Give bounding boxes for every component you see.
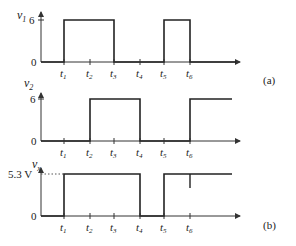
vx-high-label: 5.3 V <box>8 168 32 180</box>
v1-high-label: 6 <box>29 14 35 26</box>
v1-tick-t5: t5 <box>160 67 167 81</box>
vx-tick-t6: t6 <box>186 221 193 235</box>
v2-tick-t3: t3 <box>110 146 117 160</box>
plot-v2: v2 6 0 t1 t2 t3 t4 t5 t6 <box>24 76 240 160</box>
v1-tick-t3: t3 <box>110 67 117 81</box>
v2-high-label: 6 <box>30 93 36 105</box>
timing-diagram: v1 6 0 t1 t2 t3 t4 t5 t6 (a) v2 6 0 t1 t… <box>0 0 296 246</box>
v1-tick-t1: t1 <box>60 67 67 81</box>
v2-zero-label: 0 <box>31 135 37 147</box>
vx-zero-label: 0 <box>31 210 37 222</box>
v2-waveform <box>41 99 232 141</box>
v1-waveform <box>41 20 236 62</box>
vx-tick-t4: t4 <box>136 221 143 235</box>
plot-vx: vx 5.3 V 0 t1 t2 t3 t4 t5 t6 <box>8 157 240 235</box>
v2-tick-t2: t2 <box>86 146 93 160</box>
v1-zero-label: 0 <box>31 56 37 68</box>
vx-axis-label: vx <box>32 157 41 173</box>
v2-tick-t5: t5 <box>160 146 167 160</box>
v1-tick-t4: t4 <box>136 67 143 81</box>
vx-tick-t3: t3 <box>110 221 117 235</box>
panel-b-label: (b) <box>263 219 276 232</box>
v1-axis-label: v1 <box>17 8 26 24</box>
v1-tick-t2: t2 <box>86 67 93 81</box>
v2-tick-t1: t1 <box>60 146 67 160</box>
vx-waveform <box>41 174 232 216</box>
vx-tick-t5: t5 <box>160 221 167 235</box>
plot-v1: v1 6 0 t1 t2 t3 t4 t5 t6 <box>17 8 240 81</box>
v2-tick-t4: t4 <box>136 146 143 160</box>
vx-tick-t2: t2 <box>86 221 93 235</box>
v1-tick-t6: t6 <box>186 67 193 81</box>
vx-tick-t1: t1 <box>60 221 67 235</box>
v2-tick-t6: t6 <box>186 146 193 160</box>
v2-axis-label: v2 <box>24 76 33 92</box>
panel-a-label: (a) <box>263 74 276 87</box>
